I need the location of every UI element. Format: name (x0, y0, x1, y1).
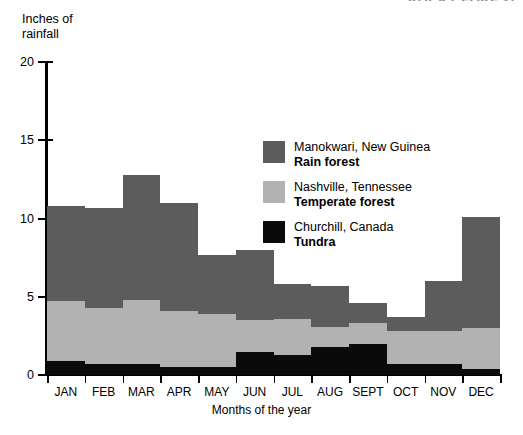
x-tick-mark (387, 374, 389, 383)
legend-text: Manokwari, New GuineaRain forest (294, 140, 430, 169)
segment-tundra (311, 347, 349, 375)
segment-tundra (274, 355, 312, 375)
x-tick-label-dec: DEC (468, 385, 493, 399)
segment-tundra (462, 369, 500, 375)
x-tick-label-apr: APR (167, 385, 192, 399)
segment-tundra (123, 364, 161, 375)
segment-tundra (236, 352, 274, 375)
x-tick-label-may: MAY (204, 385, 229, 399)
x-axis-title: Months of the year (0, 403, 523, 417)
x-tick-mark (425, 374, 427, 383)
cropped-page-header: ROCKY FOREST (408, 0, 517, 1)
segment-tundra (198, 367, 236, 375)
legend-item-temperate: Nashville, TennesseeTemperate forest (263, 180, 453, 209)
bar-dec (462, 62, 500, 375)
legend-place: Manokwari, New Guinea (294, 140, 430, 155)
x-tick-mark (311, 374, 313, 383)
bar-apr (160, 62, 198, 375)
y-tick-label: 20 (0, 55, 34, 69)
chart-figure: ROCKY FOREST Inches of rainfall 05101520… (0, 0, 523, 435)
x-tick-label-sept: SEPT (352, 385, 383, 399)
segment-tundra (425, 364, 463, 375)
segment-temperate-forest (198, 314, 236, 375)
legend-text: Nashville, TennesseeTemperate forest (294, 180, 412, 209)
bar-mar (123, 62, 161, 375)
segment-temperate-forest (160, 311, 198, 375)
legend-biome: Tundra (294, 235, 393, 250)
legend-item-rain: Manokwari, New GuineaRain forest (263, 140, 453, 169)
x-tick-label-mar: MAR (128, 385, 155, 399)
legend-place: Churchill, Canada (294, 220, 393, 235)
legend-biome: Temperate forest (294, 195, 412, 210)
segment-tundra (349, 344, 387, 375)
x-tick-label-nov: NOV (430, 385, 456, 399)
x-tick-mark (123, 374, 125, 383)
x-tick-mark (198, 374, 200, 383)
x-tick-mark (47, 374, 49, 383)
bar-feb (85, 62, 123, 375)
legend-swatch-tundra-icon (263, 221, 285, 243)
legend-swatch-temperate-icon (263, 181, 285, 203)
bar-may (198, 62, 236, 375)
legend-item-tundra: Churchill, CanadaTundra (263, 220, 453, 249)
x-tick-mark (462, 374, 464, 383)
legend-swatch-rain-icon (263, 141, 285, 163)
y-tick-label: 15 (0, 133, 34, 147)
y-tick-label: 5 (0, 290, 34, 304)
x-tick-mark (349, 374, 351, 383)
x-tick-mark (500, 374, 502, 383)
segment-tundra (47, 361, 85, 375)
x-tick-mark (85, 374, 87, 383)
x-tick-label-oct: OCT (393, 385, 418, 399)
x-tick-label-jul: JUL (282, 385, 303, 399)
x-tick-label-aug: AUG (317, 385, 343, 399)
y-tick-label: 10 (0, 212, 34, 226)
x-tick-mark (160, 374, 162, 383)
legend-text: Churchill, CanadaTundra (294, 220, 393, 249)
x-tick-label-jun: JUN (243, 385, 266, 399)
segment-tundra (85, 364, 123, 375)
segment-tundra (387, 364, 425, 375)
x-tick-label-feb: FEB (92, 385, 115, 399)
x-tick-label-jan: JAN (55, 385, 78, 399)
y-axis-title: Inches of rainfall (22, 12, 73, 42)
x-tick-mark (274, 374, 276, 383)
bar-jan (47, 62, 85, 375)
x-tick-mark (236, 374, 238, 383)
y-tick-label: 0 (0, 368, 34, 382)
segment-tundra (160, 367, 198, 375)
legend-place: Nashville, Tennessee (294, 180, 412, 195)
chart-legend: Manokwari, New GuineaRain forestNashvill… (263, 140, 453, 260)
legend-biome: Rain forest (294, 155, 430, 170)
